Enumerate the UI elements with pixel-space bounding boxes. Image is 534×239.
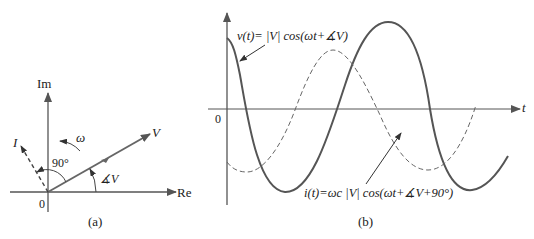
v-label-pointer — [240, 45, 265, 61]
origin-label: 0 — [39, 197, 45, 211]
v-phasor-label: V — [152, 125, 162, 140]
re-axis-label: Re — [177, 185, 192, 200]
angle-90-label: 90° — [52, 156, 69, 170]
im-axis-label: Im — [37, 76, 51, 91]
t-axis-label: t — [522, 100, 526, 115]
figure: Im Re 0 V I ω 90° ∡V (a) t 0 v(t)= |V| c… — [0, 0, 534, 239]
i-phasor — [21, 146, 48, 192]
angle-v-arc — [90, 169, 96, 192]
i-label-pointer — [366, 133, 401, 184]
angle-v-label: ∡V — [100, 172, 120, 186]
i-phasor-label: I — [12, 135, 18, 150]
caption-b: (b) — [358, 214, 373, 229]
caption-a: (a) — [88, 214, 102, 229]
phasor-diagram: Im Re 0 V I ω 90° ∡V (a) — [10, 76, 192, 229]
waveform-plot: t 0 v(t)= |V| cos(ωt+∡V) i(t)=ωc |V| cos… — [208, 13, 526, 229]
voltage-equation: v(t)= |V| cos(ωt+∡V) — [237, 29, 348, 43]
waveform-origin-label: 0 — [215, 112, 221, 126]
angle-90-arc — [37, 170, 66, 182]
current-equation: i(t)=ωc |V| cos(ωt+∡V+90°) — [304, 186, 453, 200]
voltage-curve — [227, 22, 508, 192]
omega-label: ω — [76, 130, 85, 145]
